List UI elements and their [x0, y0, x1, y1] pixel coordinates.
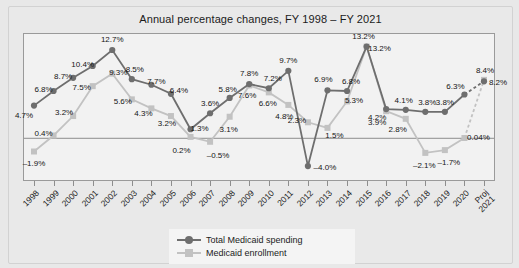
- x-tick: [54, 181, 55, 186]
- data-point[interactable]: [461, 91, 467, 97]
- data-label: 6.8%: [30, 85, 58, 94]
- x-tick: [171, 181, 172, 186]
- plot-inner: 4.7%6.8%8.7%10.4%12.7%8.5%7.7%6.4%1.3%3.…: [24, 34, 494, 180]
- plot-area: 4.7%6.8%8.7%10.4%12.7%8.5%7.7%6.4%1.3%3.…: [23, 33, 495, 181]
- data-label: –0.5%: [204, 151, 232, 160]
- x-tick: [406, 181, 407, 186]
- data-label: 9.7%: [274, 56, 302, 65]
- x-tick: [386, 181, 387, 186]
- data-label: –4.0%: [311, 163, 339, 172]
- data-point[interactable]: [403, 116, 409, 122]
- x-tick: [230, 181, 231, 186]
- data-point[interactable]: [31, 103, 37, 109]
- data-label: 5.3%: [340, 96, 368, 105]
- x-tick: [34, 181, 35, 186]
- data-label: 3.2%: [153, 119, 181, 128]
- x-tick: [269, 181, 270, 186]
- data-label: 8.7%: [49, 72, 77, 81]
- chart-legend: Total Medicaid spending Medicaid enrollm…: [169, 229, 355, 264]
- data-label: 2.3%: [283, 116, 311, 125]
- data-label: 4.7%: [10, 111, 38, 120]
- data-label: 6.6%: [254, 99, 282, 108]
- x-tick: [151, 181, 152, 186]
- data-label: 6.3%: [441, 82, 469, 91]
- data-label: 7.2%: [259, 74, 287, 83]
- x-tick: [288, 181, 289, 186]
- x-tick: [210, 181, 211, 186]
- data-label: 6.9%: [309, 75, 337, 84]
- data-label: 0.4%: [30, 129, 58, 138]
- data-point[interactable]: [246, 81, 252, 87]
- data-label: 5.6%: [109, 97, 137, 106]
- data-label: 3.8%: [431, 98, 459, 107]
- data-label: 3.6%: [196, 99, 224, 108]
- chart-figure: Annual percentage changes, FY 1998 – FY …: [8, 6, 513, 264]
- data-label: 13.2%: [366, 44, 394, 53]
- data-point[interactable]: [344, 88, 350, 94]
- data-label: 2.8%: [384, 125, 412, 134]
- series-line-spending: [34, 47, 464, 167]
- data-label: –1.7%: [435, 158, 463, 167]
- data-point[interactable]: [227, 95, 233, 101]
- circle-marker-icon: [177, 235, 201, 245]
- legend-label-spending: Total Medicaid spending: [206, 235, 303, 245]
- x-tick: [191, 181, 192, 186]
- data-label: 3.2%: [50, 108, 78, 117]
- x-axis: 1998199920002001200220032004200520062007…: [23, 181, 495, 225]
- data-label: 0.04%: [464, 133, 492, 142]
- data-label: 9.3%: [104, 68, 132, 77]
- x-tick: [484, 181, 485, 186]
- data-point[interactable]: [442, 109, 448, 115]
- data-label: 1.3%: [186, 124, 214, 133]
- x-tick: [73, 181, 74, 186]
- data-label: 12.7%: [98, 35, 126, 44]
- data-point[interactable]: [207, 110, 213, 116]
- data-label: –1.9%: [20, 159, 48, 168]
- data-point[interactable]: [266, 85, 272, 91]
- legend-label-enrollment: Medicaid enrollment: [206, 248, 287, 258]
- data-label: 4.3%: [129, 109, 157, 118]
- legend-item-spending[interactable]: Total Medicaid spending: [177, 233, 347, 246]
- data-point[interactable]: [324, 87, 330, 93]
- data-point[interactable]: [422, 150, 428, 156]
- square-marker-icon: [177, 248, 201, 258]
- data-point[interactable]: [188, 134, 194, 140]
- x-tick: [308, 181, 309, 186]
- data-point[interactable]: [285, 68, 291, 74]
- data-label: 8.2%: [484, 78, 512, 87]
- x-tick: [249, 181, 250, 186]
- x-tick: [367, 181, 368, 186]
- data-label: 7.5%: [68, 83, 96, 92]
- x-tick: [445, 181, 446, 186]
- chart-title: Annual percentage changes, FY 1998 – FY …: [9, 13, 512, 25]
- data-label: 13.2%: [350, 32, 378, 41]
- data-point[interactable]: [227, 114, 233, 120]
- data-label: 7.7%: [142, 77, 170, 86]
- data-point[interactable]: [109, 47, 115, 53]
- data-point[interactable]: [403, 107, 409, 113]
- data-point[interactable]: [285, 102, 291, 108]
- data-label: 6.4%: [165, 86, 193, 95]
- data-label: 8.4%: [471, 66, 499, 75]
- data-point[interactable]: [442, 147, 448, 153]
- x-tick: [132, 181, 133, 186]
- data-point[interactable]: [129, 76, 135, 82]
- x-tick: [464, 181, 465, 186]
- data-point[interactable]: [31, 148, 37, 154]
- data-label: 10.4%: [69, 60, 97, 69]
- data-point[interactable]: [383, 106, 389, 112]
- x-tick: [112, 181, 113, 186]
- x-tick: [425, 181, 426, 186]
- x-tick: [327, 181, 328, 186]
- x-tick: [93, 181, 94, 186]
- data-label: 0.2%: [168, 146, 196, 155]
- legend-item-enrollment[interactable]: Medicaid enrollment: [177, 246, 347, 259]
- x-tick: [347, 181, 348, 186]
- data-label: 3.1%: [215, 125, 243, 134]
- data-label: 6.8%: [337, 77, 365, 86]
- data-label: 1.5%: [320, 131, 348, 140]
- data-point[interactable]: [207, 139, 213, 145]
- data-point[interactable]: [422, 109, 428, 115]
